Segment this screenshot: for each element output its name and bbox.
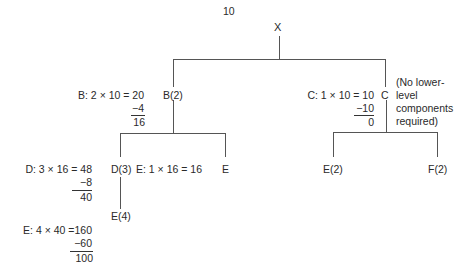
edge-d-down bbox=[120, 177, 121, 209]
edge-to-c bbox=[385, 59, 386, 87]
calc-c-line1: C: 1 × 10 = 10 bbox=[290, 89, 374, 101]
node-c: C bbox=[381, 89, 389, 101]
edge-to-e-under-b bbox=[225, 133, 226, 157]
calc-c-result: 0 bbox=[354, 115, 374, 128]
edge-to-e-under-c bbox=[333, 132, 334, 157]
edge-b-down bbox=[173, 100, 174, 133]
top-quantity: 10 bbox=[223, 5, 235, 17]
edge-b-children-bar bbox=[120, 133, 226, 134]
root-node-x: X bbox=[274, 21, 281, 33]
calc-c-subtract: −10 bbox=[350, 102, 374, 114]
edge-c-children-bar bbox=[333, 132, 438, 133]
node-b: B(2) bbox=[163, 89, 183, 101]
edge-c-down bbox=[386, 100, 387, 132]
edge-to-b bbox=[173, 59, 174, 87]
edge-root bbox=[279, 36, 280, 59]
node-e-under-b: E bbox=[222, 163, 229, 175]
node-d: D(3) bbox=[111, 163, 131, 175]
node-f-under-c: F(2) bbox=[428, 163, 447, 175]
calc-d-result: 40 bbox=[72, 190, 92, 203]
calc-b-line1: B: 2 × 10 = 20 bbox=[60, 89, 144, 101]
calc-b-result: 16 bbox=[131, 115, 145, 128]
c-note-line4: required) bbox=[396, 115, 438, 127]
calc-b-subtract: −4 bbox=[124, 102, 144, 114]
calc-d-subtract: −8 bbox=[72, 176, 92, 188]
edge-level1-bar bbox=[173, 59, 386, 60]
c-note-line3: components bbox=[396, 102, 453, 114]
c-note-line2: level bbox=[396, 89, 418, 101]
calc-e-under-d-subtract: −60 bbox=[70, 237, 92, 249]
node-e-under-c: E(2) bbox=[323, 163, 343, 175]
calc-e-under-d-result: 100 bbox=[70, 251, 93, 264]
edge-to-d bbox=[120, 133, 121, 157]
node-e-under-d: E(4) bbox=[111, 210, 131, 222]
calc-e-under-d-line1: E: 4 × 40 =160 bbox=[8, 224, 92, 236]
calc-e-under-b: E: 1 × 16 = 16 bbox=[136, 163, 202, 175]
c-note-line1: (No lower- bbox=[396, 76, 444, 88]
edge-to-f-under-c bbox=[437, 132, 438, 157]
calc-d-line1: D: 3 × 16 = 48 bbox=[8, 163, 92, 175]
